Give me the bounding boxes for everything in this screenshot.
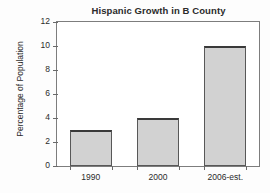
- bar[interactable]: [137, 118, 179, 166]
- y-tick-label: 4: [45, 112, 50, 122]
- x-tick-label: 1990: [81, 172, 100, 182]
- bar[interactable]: [70, 130, 112, 166]
- x-tick-mark: [112, 166, 113, 170]
- y-axis-title: Percentage of Population: [15, 14, 25, 164]
- y-tick-mark: [53, 142, 58, 143]
- y-tick-label: 12: [41, 16, 50, 26]
- y-tick-label: 2: [45, 136, 50, 146]
- y-tick-label: 6: [45, 88, 50, 98]
- plot-area: 024681012 199020002006-est.: [56, 21, 260, 167]
- x-tick-mark: [246, 166, 247, 170]
- chart-title: Hispanic Growth in B County: [56, 5, 261, 17]
- bar-chart-figure: Hispanic Growth in B County Percentage o…: [0, 0, 270, 193]
- y-tick-mark: [53, 118, 58, 119]
- y-tick-mark: [53, 70, 58, 71]
- bar[interactable]: [204, 46, 246, 166]
- y-tick-mark: [53, 94, 58, 95]
- x-tick-mark: [137, 166, 138, 170]
- x-tick-mark: [204, 166, 205, 170]
- x-tick-mark: [70, 166, 71, 170]
- y-tick-label: 8: [45, 64, 50, 74]
- y-tick-label: 10: [41, 40, 50, 50]
- y-tick-mark: [53, 166, 58, 167]
- y-tick-mark: [53, 22, 58, 23]
- x-tick-label: 2000: [149, 172, 168, 182]
- x-tick-mark: [179, 166, 180, 170]
- x-tick-label: 2006-est.: [208, 172, 243, 182]
- y-tick-label: 0: [45, 160, 50, 170]
- y-tick-mark: [53, 46, 58, 47]
